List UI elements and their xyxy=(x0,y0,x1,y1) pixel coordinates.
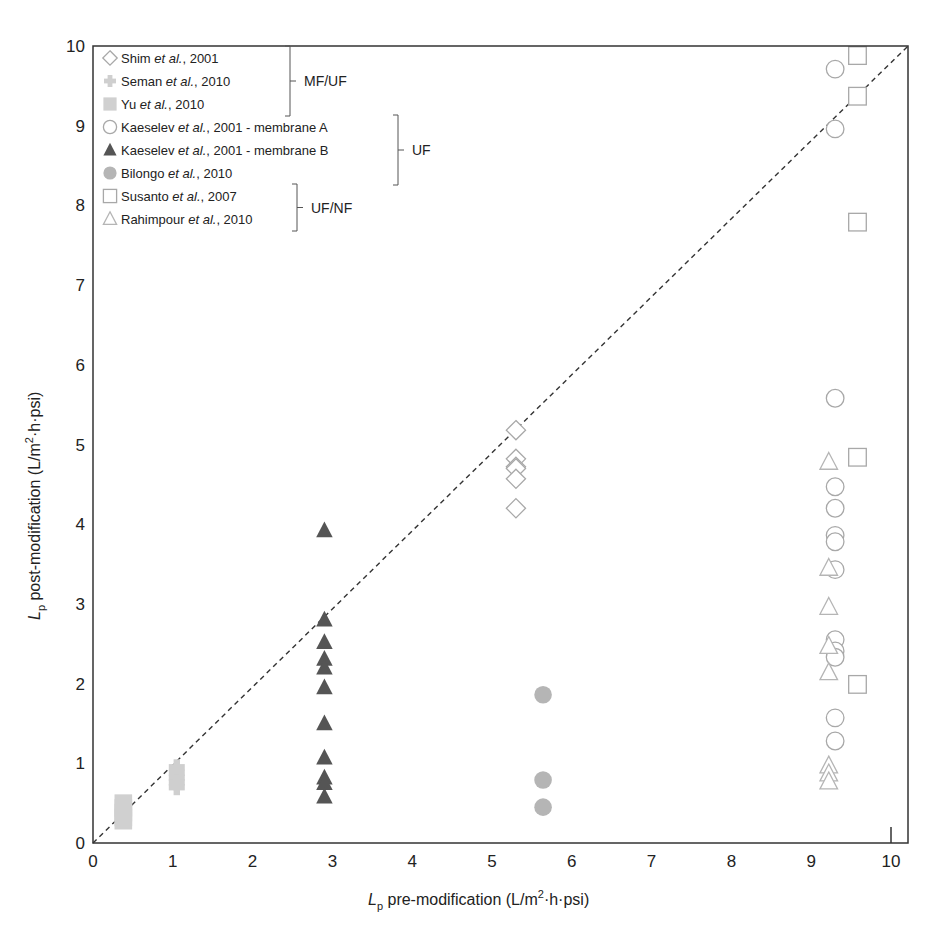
legend-item: Susanto et al., 2007 xyxy=(103,189,236,204)
data-point xyxy=(115,812,133,830)
legend-item: Shim et al., 2001 xyxy=(103,51,219,66)
data-point xyxy=(506,499,525,518)
data-point xyxy=(534,686,552,704)
legend-item: Kaeselev et al., 2001 - membrane B xyxy=(103,143,328,158)
legend-item: Bilongo et al., 2010 xyxy=(103,166,232,181)
data-point xyxy=(820,452,838,469)
legend: Shim et al., 2001Seman et al., 2010Yu et… xyxy=(103,46,431,231)
y-tick-label: 3 xyxy=(76,595,85,614)
x-tick-label: 9 xyxy=(806,852,815,871)
legend-marker-icon xyxy=(103,97,116,110)
x-tick-label: 2 xyxy=(248,852,257,871)
x-tick-label: 4 xyxy=(407,852,416,871)
data-point xyxy=(506,421,525,440)
data-point xyxy=(849,87,867,105)
y-axis-ticks: 012345678910 xyxy=(66,37,85,853)
y-tick-label: 8 xyxy=(76,196,85,215)
legend-item: Kaeselev et al., 2001 - membrane A xyxy=(103,120,328,135)
y-tick-label: 2 xyxy=(76,675,85,694)
data-point xyxy=(316,679,333,695)
data-point xyxy=(849,47,867,65)
data-point xyxy=(820,597,838,614)
x-tick-label: 6 xyxy=(567,852,576,871)
x-tick-label: 1 xyxy=(168,852,177,871)
series-shim-et-al-2001 xyxy=(506,421,525,518)
legend-label: Yu et al., 2010 xyxy=(121,97,204,112)
legend-marker-icon xyxy=(103,143,116,156)
data-point xyxy=(826,120,844,138)
data-point xyxy=(316,714,333,730)
data-point xyxy=(826,709,844,727)
legend-marker-icon xyxy=(104,75,116,87)
series-yu-et-al-2010 xyxy=(115,794,133,829)
series-susanto-et-al-2007 xyxy=(849,47,867,693)
x-axis-ticks: 012345678910 xyxy=(88,852,900,871)
series-bilongo-et-al-2010 xyxy=(534,686,552,816)
legend-label: Seman et al., 2010 xyxy=(121,74,230,89)
y-axis-title: Lp post-modification (L/m2·h·psi) xyxy=(23,392,47,620)
legend-label: Shim et al., 2001 xyxy=(121,51,219,66)
y-tick-label: 1 xyxy=(76,754,85,773)
data-point xyxy=(534,798,552,816)
series-kaeselev-et-al-2001-membrane-b xyxy=(316,522,333,804)
y-tick-label: 10 xyxy=(66,37,85,56)
legend-marker-icon xyxy=(103,189,116,202)
legend-group-label: UF xyxy=(412,142,431,158)
legend-group-bracket: UF/NF xyxy=(292,184,352,231)
data-point xyxy=(826,533,844,551)
legend-label: Susanto et al., 2007 xyxy=(121,189,237,204)
data-point xyxy=(826,478,844,496)
data-point xyxy=(316,633,333,649)
legend-label: Kaeselev et al., 2001 - membrane A xyxy=(121,120,328,135)
x-tick-label: 8 xyxy=(727,852,736,871)
legend-item: Rahimpour et al., 2010 xyxy=(103,212,252,227)
data-series xyxy=(115,47,867,830)
y-tick-label: 9 xyxy=(76,117,85,136)
y-tick-label: 7 xyxy=(76,276,85,295)
legend-group-bracket: UF xyxy=(393,115,431,185)
legend-marker-icon xyxy=(103,212,116,225)
x-tick-label: 7 xyxy=(647,852,656,871)
x-axis-title: Lp pre-modification (L/m2·h·psi) xyxy=(368,888,589,912)
x-tick-label: 10 xyxy=(882,852,901,871)
data-point xyxy=(316,611,333,627)
legend-item: Seman et al., 2010 xyxy=(104,74,230,89)
x-tick-label: 5 xyxy=(487,852,496,871)
data-point xyxy=(534,771,552,789)
x-tick-label: 3 xyxy=(328,852,337,871)
y-tick-label: 5 xyxy=(76,436,85,455)
data-point xyxy=(849,676,867,694)
legend-group-label: MF/UF xyxy=(304,73,347,89)
scatter-chart: 012345678910 012345678910 Shim et al., 2… xyxy=(0,0,938,937)
legend-marker-icon xyxy=(103,120,116,133)
legend-label: Rahimpour et al., 2010 xyxy=(121,212,253,227)
data-point xyxy=(849,448,867,466)
data-point xyxy=(826,389,844,407)
data-point xyxy=(826,732,844,750)
data-point xyxy=(826,499,844,517)
legend-item: Yu et al., 2010 xyxy=(103,97,204,112)
x-tick-label: 0 xyxy=(88,852,97,871)
legend-label: Bilongo et al., 2010 xyxy=(121,166,232,181)
data-point xyxy=(849,213,867,231)
data-point xyxy=(316,749,333,765)
legend-marker-icon xyxy=(103,166,116,179)
series-seman-et-al-2010 xyxy=(169,759,185,795)
y-tick-label: 6 xyxy=(76,356,85,375)
y-tick-label: 4 xyxy=(76,515,85,534)
legend-marker-icon xyxy=(103,51,117,65)
legend-group-bracket: MF/UF xyxy=(285,46,347,116)
data-point xyxy=(826,60,844,78)
legend-group-label: UF/NF xyxy=(311,200,352,216)
data-point xyxy=(316,522,333,538)
y-tick-label: 0 xyxy=(76,834,85,853)
legend-label: Kaeselev et al., 2001 - membrane B xyxy=(121,143,328,158)
data-point xyxy=(316,788,333,804)
